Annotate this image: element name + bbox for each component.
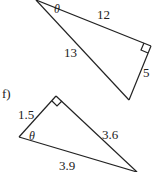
theta-label-f: θ xyxy=(29,130,35,142)
side-13 xyxy=(36,0,129,100)
label-12: 12 xyxy=(97,8,110,21)
label-5: 5 xyxy=(143,66,150,79)
right-angle-marker xyxy=(52,101,62,106)
theta-label-e: θ xyxy=(54,3,60,15)
triangles-figure xyxy=(0,0,157,172)
part-label-f: f) xyxy=(2,87,11,100)
label-1-5: 1.5 xyxy=(18,108,34,121)
side-3-9 xyxy=(19,137,137,172)
label-3-9: 3.9 xyxy=(59,159,75,172)
label-3-6: 3.6 xyxy=(102,128,118,141)
triangle-f xyxy=(19,96,137,172)
label-13: 13 xyxy=(64,46,77,59)
